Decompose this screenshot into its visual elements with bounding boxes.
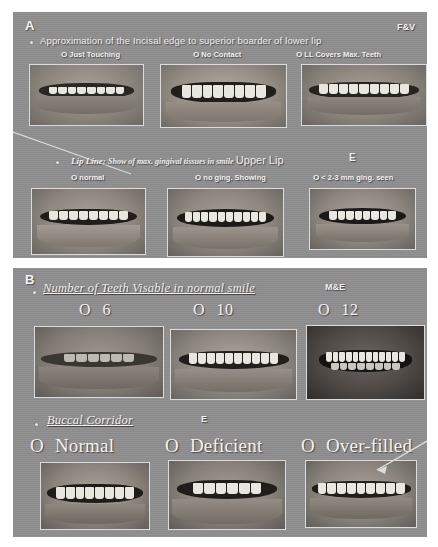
section-heading-buccal-corridor: Buccal Corridor [47, 413, 133, 428]
option-label: 12 [342, 301, 359, 318]
photo-no-gingiva-showing [167, 188, 284, 257]
option-deficient-buccal[interactable]: O Deficient [165, 435, 262, 457]
option-no-gingiva-showing[interactable]: O no ging. Showing [195, 173, 266, 182]
photo-just-touching [29, 64, 144, 126]
lip-line-title: Lip Line: [71, 156, 106, 166]
option-label: Normal [55, 435, 114, 456]
photo-normal-buccal [40, 462, 150, 530]
photo-ll-covers-max-teeth [301, 64, 427, 126]
option-label: Over-filled [326, 435, 412, 456]
option-normal-buccal[interactable]: O Normal [30, 435, 114, 457]
photo-over-filled-buccal [305, 460, 417, 528]
radio-marker[interactable]: O [313, 173, 319, 182]
radio-marker[interactable]: O [195, 173, 201, 182]
option-label: Just Touching [69, 50, 120, 59]
panel-a: A F&V Approximation of the Incisal edge … [13, 12, 427, 258]
lip-line-subtitle: Show of max. gingival tissues in smile [108, 157, 234, 166]
bullet-icon-b2 [35, 423, 38, 426]
option-label: LL Covers Max. Teeth [304, 50, 381, 59]
photo-normal-lip-line [31, 188, 146, 255]
section-heading-number-of-teeth: Number of Teeth Visable in normal smile [43, 281, 255, 296]
section-tag-me-b1: M&E [325, 282, 345, 292]
option-just-touching[interactable]: O Just Touching [61, 50, 120, 59]
bullet-icon-b1 [33, 291, 36, 294]
option-over-filled-buccal[interactable]: O Over-filled [301, 435, 412, 457]
option-label: 10 [217, 301, 234, 318]
section-tag-e-b2: E [201, 414, 207, 424]
radio-marker[interactable]: O [296, 50, 302, 59]
section-tag-e-a2: E [349, 152, 356, 163]
radio-marker[interactable]: O [71, 173, 77, 182]
photo-no-contact [160, 64, 287, 128]
option-twelve-teeth[interactable]: O 12 [318, 301, 359, 319]
photo-six-teeth [34, 326, 164, 398]
radio-marker[interactable]: O [318, 301, 330, 318]
option-label: normal [79, 173, 104, 182]
photo-gingiva-seen [309, 188, 416, 250]
panel-b-letter: B [25, 272, 35, 287]
panel-a-corner-tag: F&V [397, 22, 415, 32]
panel-b: B Number of Teeth Visable in normal smil… [13, 268, 427, 537]
radio-marker[interactable]: O [30, 435, 44, 456]
bullet-icon-a1 [30, 41, 33, 44]
lip-line-extra: Upper Lip [236, 154, 284, 166]
option-no-contact[interactable]: O No Contact [193, 50, 241, 59]
option-label: 6 [103, 301, 112, 318]
figure-canvas: A F&V Approximation of the Incisal edge … [0, 0, 438, 547]
option-six-teeth[interactable]: O 6 [79, 301, 111, 319]
option-normal-lip-line[interactable]: O normal [71, 173, 104, 182]
radio-marker[interactable]: O [79, 301, 91, 318]
photo-ten-teeth [170, 329, 297, 400]
photo-twelve-teeth [306, 325, 425, 400]
bullet-icon-a2 [56, 161, 59, 164]
photo-deficient-buccal [168, 460, 286, 530]
radio-marker[interactable]: O [165, 435, 179, 456]
panel-a-letter: A [25, 18, 35, 33]
option-ten-teeth[interactable]: O 10 [193, 301, 234, 319]
option-label: No Contact [201, 50, 241, 59]
section-heading-lip-line: Lip Line: Show of max. gingival tissues … [71, 154, 284, 166]
option-ll-covers-max-teeth[interactable]: O LL Covers Max. Teeth [296, 50, 381, 59]
radio-marker[interactable]: O [193, 50, 199, 59]
option-label: Deficient [190, 435, 262, 456]
section-heading-incisal-edge: Approximation of the Incisal edge to sup… [40, 35, 321, 46]
option-label: < 2-3 mm ging. seen [321, 173, 393, 182]
option-label: no ging. Showing [203, 173, 266, 182]
radio-marker[interactable]: O [193, 301, 205, 318]
option-gingiva-seen[interactable]: O < 2-3 mm ging. seen [313, 173, 393, 182]
radio-marker[interactable]: O [301, 435, 315, 456]
radio-marker[interactable]: O [61, 50, 67, 59]
